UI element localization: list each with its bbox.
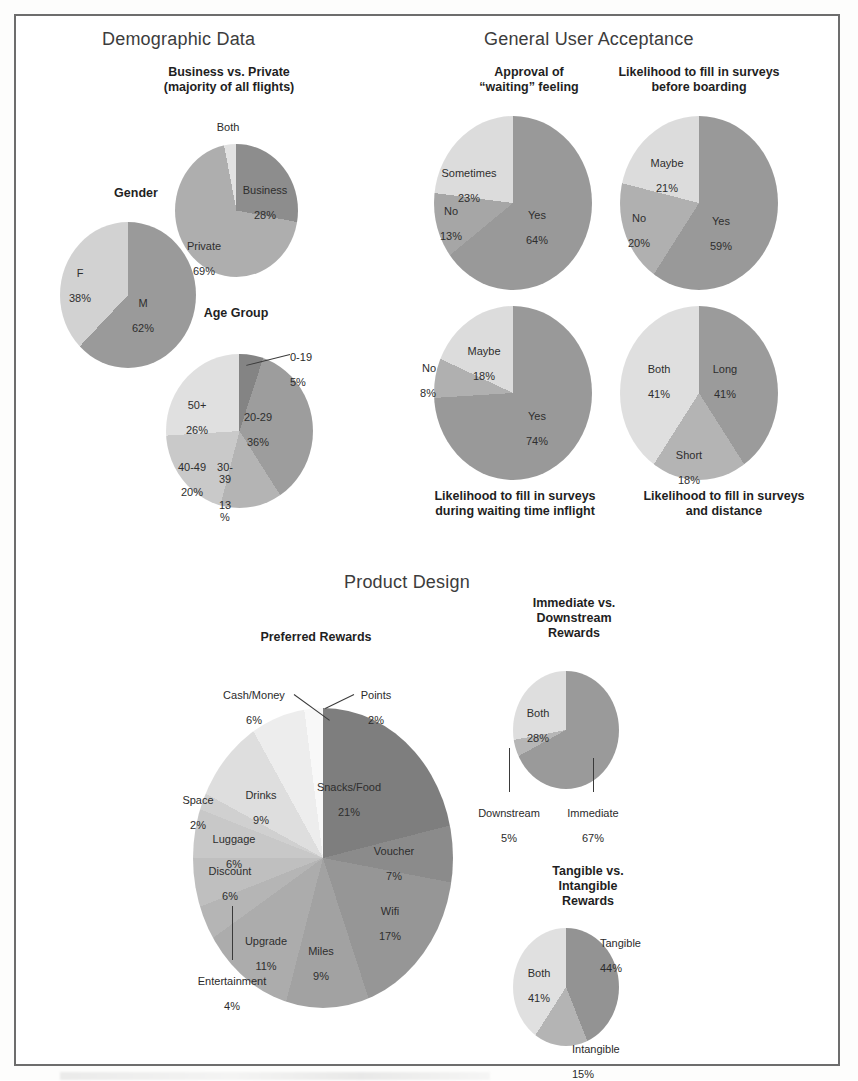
slice-label-swi-no: No 8% [412,349,436,400]
slice-label-age-50-plus: 50+ 26% [176,386,218,437]
scan-artifact-bottom [60,1072,490,1080]
chart-title-preferred-rewards: Preferred Rewards [226,630,406,645]
slice-label-ivd-both: Both 28% [516,694,560,745]
leader-line-pr-entertainment [232,906,233,960]
slice-label-pr-snacks-food: Snacks/Food 21% [310,768,388,819]
slice-label-pr-voucher: Voucher 7% [366,832,422,883]
chart-title-business-vs-private: Business vs. Private (majority of all fl… [134,65,324,95]
slice-label-tvi-intangible: Intangible 15% [572,1030,642,1081]
section-title-demographic: Demographic Data [102,29,255,50]
slice-label-age-20-29: 20-29 36% [232,398,284,449]
slice-label-sd-long: Long 41% [702,350,748,401]
slice-label-swi-maybe: Maybe 18% [458,332,510,383]
slice-label-sbb-yes: Yes 59% [698,202,744,253]
slice-label-tvi-both: Both 41% [518,954,560,1005]
slice-label-pr-cash-money: Cash/Money 6% [212,676,296,727]
slice-label-ivd-immediate: Immediate 67% [560,794,626,845]
slice-label-tvi-tangible: Tangible 44% [600,924,662,975]
section-title-product-design: Product Design [344,572,470,593]
slice-label-sd-short: Short 18% [666,436,712,487]
slice-label-sbb-no: No 20% [621,199,657,250]
slice-label-ivd-downstream: Downstream 5% [468,794,550,845]
slice-label-swi-yes: Yes 74% [514,397,560,448]
slice-label-pr-wifi: Wifi 17% [370,892,410,943]
slice-label-approval-yes: Yes 64% [514,196,560,247]
slice-label-bvp-business: Business 28% [232,171,298,222]
slice-label-gender-m: M 62% [120,284,166,335]
chart-title-approval-waiting: Approval of “waiting” feeling [438,65,620,95]
slice-label-sbb-maybe: Maybe 21% [641,144,693,195]
slice-label-pr-drinks: Drinks 9% [236,776,286,827]
chart-title-age-group: Age Group [176,306,296,321]
slice-label-pr-points: Points 2% [350,676,402,727]
leader-line-ivd-downstream [509,748,510,792]
slice-label-gender-f: F 38% [60,254,100,305]
slice-label-pr-space: Space 2% [176,781,220,832]
slice-label-age-40-49: 40-49 20% [168,448,216,499]
page-frame: Demographic Data General User Acceptance… [14,14,840,1066]
chart-title-surveys-and-distance: Likelihood to fill in surveys and distan… [624,489,824,519]
chart-title-surveys-waiting-inflight: Likelihood to fill in surveys during wai… [408,489,622,519]
slice-label-sd-both: Both 41% [636,350,682,401]
leader-line-ivd-immediate [593,758,594,792]
slice-label-approval-sometimes: Sometimes 23% [434,154,504,205]
slice-label-pr-entertainment: Entertainment 4% [188,962,276,1013]
section-title-acceptance: General User Acceptance [484,29,694,50]
chart-title-immediate-vs-downstream: Immediate vs. Downstream Rewards [504,596,644,640]
slice-label-pr-miles: Miles 9% [300,932,342,983]
slice-label-bvp-private: Private 69% [176,227,232,278]
slice-label-age-0-19: 0-19 5% [290,338,350,389]
chart-title-surveys-before-boarding: Likelihood to fill in surveys before boa… [594,65,804,95]
chart-title-tangible-vs-intangible: Tangible vs. Intangible Rewards [516,864,660,908]
